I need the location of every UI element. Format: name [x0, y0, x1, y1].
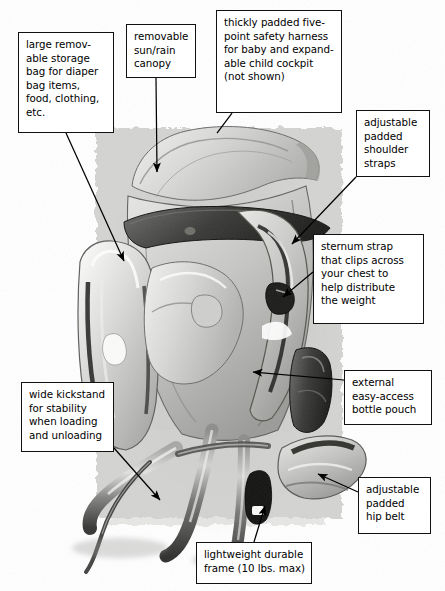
callout-hip-belt: adjustable padded hip belt — [358, 477, 431, 534]
callout-kickstand: wide kickstand for stability when loadin… — [21, 382, 114, 452]
callout-canopy: removable sun/rain canopy — [126, 24, 196, 78]
callout-harness: thickly padded five- point safety harnes… — [216, 10, 342, 113]
callout-shoulder-straps: adjustable padded shoulder straps — [356, 110, 430, 177]
callout-sternum-strap: sternum strap that clips across your che… — [313, 234, 424, 324]
callout-storage-bag: large remov- able storage bag for diaper… — [18, 32, 114, 133]
callout-frame: lightweight durable frame (10 lbs. max) — [196, 542, 312, 584]
callout-bottle-pouch: external easy-access bottle pouch — [344, 370, 432, 425]
annotated-product-diagram: large remov- able storage bag for diaper… — [0, 0, 445, 591]
